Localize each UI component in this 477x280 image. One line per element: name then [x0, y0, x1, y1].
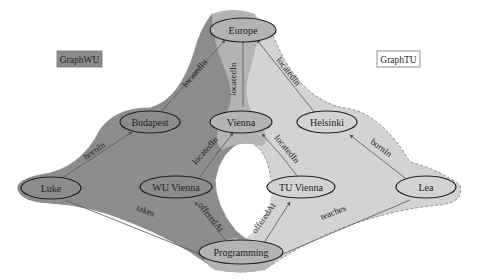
knowledge-graph-diagram: locatedIn locatedIn locatedIn bornIn bor… [0, 0, 477, 280]
node-label-luke: Luke [41, 183, 62, 194]
node-budapest[interactable]: Budapest [120, 111, 180, 133]
node-europe[interactable]: Europe [210, 18, 276, 42]
node-label-programming: Programming [214, 247, 269, 258]
node-tu-vienna[interactable]: TU Vienna [267, 176, 335, 198]
legend-label-graph-wu: GraphWU [60, 55, 100, 65]
node-label-helsinki: Helsinki [310, 117, 344, 128]
node-label-tu-vienna: TU Vienna [279, 182, 323, 193]
node-label-wu-vienna: WU Vienna [152, 182, 200, 193]
node-vienna[interactable]: Vienna [210, 111, 272, 133]
node-programming[interactable]: Programming [199, 240, 283, 264]
legend-label-graph-tu: GraphTU [380, 55, 417, 65]
node-luke[interactable]: Luke [21, 177, 81, 199]
node-wu-vienna[interactable]: WU Vienna [140, 176, 212, 198]
node-helsinki[interactable]: Helsinki [297, 111, 357, 133]
edge-label-vienna-europe: locatedIn [228, 62, 238, 96]
node-lea[interactable]: Lea [396, 176, 456, 198]
node-label-lea: Lea [419, 182, 435, 193]
legend-graph-tu: GraphTU [377, 51, 420, 67]
node-label-vienna: Vienna [227, 117, 256, 128]
node-label-budapest: Budapest [131, 117, 168, 128]
node-label-europe: Europe [229, 25, 258, 36]
legend-graph-wu: GraphWU [57, 51, 102, 67]
